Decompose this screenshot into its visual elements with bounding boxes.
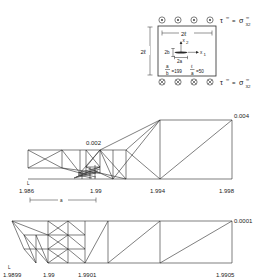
ratio-ab-denominator: b [166,71,169,76]
equals-sign-bottom: = [232,80,236,86]
cracked-plate-schematic: τ ∞ = σ 32 ∞ 2ℓ 2ℓ 2b [0,0,279,96]
mesh-level-2: 0.0001 L 1.9899 1.99 1.9901 1.9905 [0,205,279,280]
tau-symbol-bottom: τ [220,78,223,87]
x1-axis-subscript: 1 [204,52,207,57]
mesh1-scale-label: a [60,198,63,203]
sigma-infinity-sup-bottom: ∞ [246,77,249,82]
top-marker-group [159,17,213,23]
figure-root: τ ∞ = σ 32 ∞ 2ℓ 2ℓ 2b [0,0,279,280]
sigma-infinity-sup-top: ∞ [246,15,249,20]
mesh1-xtick-2: 1.994 [150,188,166,194]
mesh-level-2-elements [12,221,232,263]
flaw-height-dimension [171,49,174,57]
circle-dot-icon [207,17,213,23]
ratio-annotations: a b =199 ℓ a =50 [165,64,204,76]
plate-width-label: 2ℓ [181,31,186,37]
circle-cross-icon [207,79,213,85]
mesh-level-1-elements [28,120,232,179]
circle-cross-icon [159,79,165,85]
ratio-ab-value: =199 [172,69,183,74]
tau-symbol-top: τ [220,16,223,25]
remote-load-label-top: τ ∞ = σ 32 ∞ [220,15,251,27]
mesh1-annotation-0.002: 0.002 [86,140,102,146]
sigma-subscript-bottom: 32 [246,84,251,89]
x2-axis-subscript: 2 [186,40,189,45]
mesh2-xtick-2: 1.9901 [78,272,97,278]
mesh1-xtick-3: 1.998 [219,188,235,194]
circle-dot-icon [175,17,181,23]
sigma-symbol-top: σ [239,16,244,25]
ratio-la-denominator: a [191,71,194,76]
remote-load-label-bottom: τ ∞ = σ 32 ∞ [220,77,251,89]
circle-cross-icon [191,79,197,85]
bottom-marker-group [159,79,213,85]
mesh1-xtick-0: 1.986 [19,188,35,194]
sigma-subscript-top: 32 [246,22,251,27]
circle-dot-icon [191,17,197,23]
mesh1-xtick-1: 1.99 [90,188,102,194]
plate-height-label: 2ℓ [141,49,146,55]
flaw-detail: 2b 2a x 2 x 1 [165,38,207,64]
mesh1-annotation-0.004: 0.004 [234,113,250,119]
mesh2-xtick-0: 1.9899 [3,272,22,278]
sigma-symbol-bottom: σ [239,78,244,87]
circle-dot-icon [159,17,165,23]
mesh2-origin-marker: L [8,265,11,270]
x1-arrowhead [196,51,199,54]
tau-infinity-sup-top: ∞ [226,15,229,20]
flaw-width-label: 2a [177,59,183,64]
ratio-la-numerator: ℓ [191,64,193,69]
equals-sign-top: = [232,18,236,24]
ratio-la-value: =50 [196,69,204,74]
flaw-height-label: 2b [165,50,171,55]
circle-cross-icon [175,79,181,85]
mesh2-annotation-0.0001: 0.0001 [234,218,253,224]
mesh1-origin-marker: L [27,181,30,186]
mesh-level-1: 0.002 0.004 L 1.986 1.99 1.994 1.998 a [0,95,279,205]
tau-infinity-sup-bottom: ∞ [226,77,229,82]
mesh2-xtick-1: 1.99 [43,272,55,278]
mesh2-xtick-3: 1.9905 [216,272,235,278]
ratio-ab-numerator: a [166,64,169,69]
